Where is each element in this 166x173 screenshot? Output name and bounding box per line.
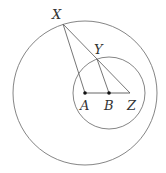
segment-xa xyxy=(63,24,85,93)
label-y: Y xyxy=(94,42,104,57)
label-b: B xyxy=(103,98,114,113)
point-b-dot xyxy=(107,91,111,95)
geometry-diagram: X Y A B Z xyxy=(0,0,166,173)
segment-yb xyxy=(97,59,109,93)
point-a-dot xyxy=(83,91,87,95)
label-x: X xyxy=(51,7,62,22)
label-a: A xyxy=(79,98,89,113)
label-z: Z xyxy=(126,98,137,113)
